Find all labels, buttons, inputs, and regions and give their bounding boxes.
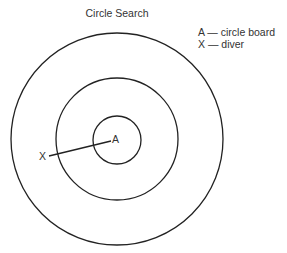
circle-search-diagram bbox=[0, 0, 287, 253]
circle-board-label: A bbox=[112, 133, 119, 145]
diver-label: X bbox=[39, 150, 46, 162]
search-line bbox=[49, 141, 111, 156]
